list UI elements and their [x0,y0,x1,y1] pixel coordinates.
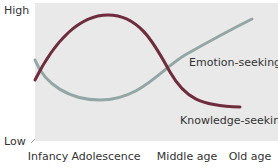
knowledge-seeking-label: Knowledge-seeking [180,114,278,127]
y-axis-high-label: High [4,4,29,17]
emotion-seeking-label: Emotion-seeking [189,56,278,69]
y-axis-low-label: Low [4,135,26,148]
chart-curves [0,0,278,168]
x-tick-adolescence: Adolescence [71,150,140,163]
axis-break-mark [31,139,35,143]
x-tick-old-age: Old age [229,150,272,163]
x-tick-middle-age: Middle age [157,150,217,163]
x-tick-infancy: Infancy [28,150,68,163]
